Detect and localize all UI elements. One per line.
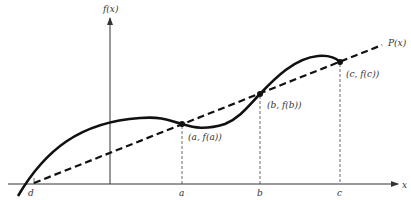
interpolation-diagram: f(x) x P(x) d a b c (a, f(a)) (b, f(b)) … <box>0 0 411 200</box>
point-label-a: (a, f(a)) <box>188 132 222 142</box>
x-axis-label: x <box>402 180 407 190</box>
y-axis-label: f(x) <box>102 4 119 14</box>
point-b <box>257 91 263 97</box>
tick-label-d: d <box>28 188 34 198</box>
point-c <box>337 59 343 65</box>
point-a <box>179 121 185 127</box>
tick-label-c: c <box>337 188 342 198</box>
line-p <box>34 45 382 183</box>
tick-label-a: a <box>179 188 184 198</box>
point-label-c: (c, f(c)) <box>346 69 380 79</box>
tick-label-b: b <box>257 188 263 198</box>
point-label-b: (b, f(b)) <box>267 100 302 110</box>
line-label: P(x) <box>387 38 407 48</box>
